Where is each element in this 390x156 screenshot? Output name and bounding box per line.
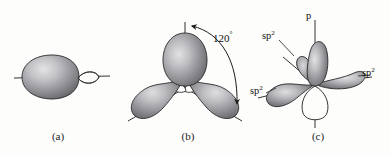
caption-panel-b: (b) <box>168 130 208 142</box>
panel-c-sp2-plus-p-orbital <box>258 20 372 128</box>
caption-panel-c: (c) <box>298 130 338 142</box>
panel-a-main-lobe <box>22 55 79 99</box>
label-p-orbital: p <box>306 11 311 22</box>
label-sp2-lower-left: sp2 <box>250 86 263 97</box>
angle-degree-symbol: ° <box>230 30 233 39</box>
panel-b-lobe-up <box>163 33 207 86</box>
label-sp2-right: sp2 <box>362 68 375 79</box>
angle-label-120: 120° <box>213 33 233 44</box>
panel-c-leader-sp2-upper-left <box>279 40 294 56</box>
label-sp2-lower-left-sup: 2 <box>259 84 263 92</box>
label-sp2-upper-left: sp2 <box>262 31 275 42</box>
label-sp2-upper-left-text: sp <box>262 30 271 41</box>
panel-a-sp2-orbital <box>14 55 110 99</box>
angle-value: 120 <box>213 32 230 44</box>
orbital-hybridization-figure: 120° p sp2 sp2 sp2 (a) (b) (c) <box>0 0 390 156</box>
label-sp2-right-sup: 2 <box>371 66 375 74</box>
panel-c-p-lobe-upper <box>307 42 328 86</box>
label-sp2-right-text: sp <box>362 67 371 78</box>
caption-panel-a: (a) <box>38 130 78 142</box>
label-sp2-lower-left-text: sp <box>250 85 259 96</box>
label-sp2-upper-left-sup: 2 <box>271 29 275 37</box>
